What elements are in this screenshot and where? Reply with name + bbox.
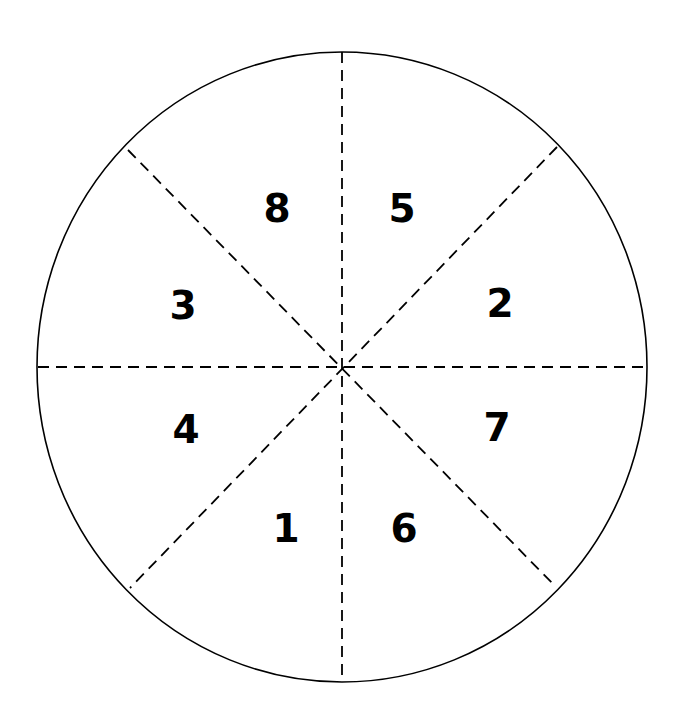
sector-label-1: 1 — [272, 509, 299, 548]
sector-label-7: 7 — [483, 408, 510, 447]
sector-label-4: 4 — [172, 410, 199, 449]
sector-wheel-graphic — [0, 0, 683, 720]
sector-label-3: 3 — [169, 286, 196, 325]
sector-label-8: 8 — [263, 189, 290, 228]
sector-label-2: 2 — [486, 284, 513, 323]
sector-label-5: 5 — [388, 189, 415, 228]
sector-label-6: 6 — [390, 509, 417, 548]
diagram-canvas: 8 5 3 2 4 7 1 6 — [0, 0, 683, 720]
